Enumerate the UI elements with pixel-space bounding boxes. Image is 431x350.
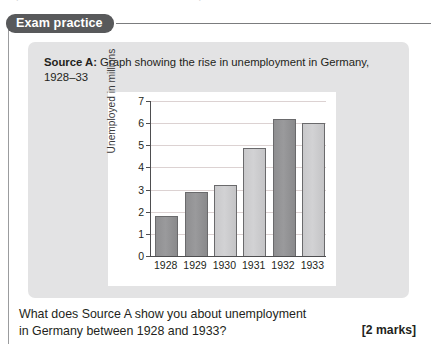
y-axis-tick-label: 2	[138, 206, 144, 217]
bar-1931	[243, 148, 266, 257]
x-axis-line	[150, 256, 326, 257]
exam-question: What does Source A show you about unempl…	[19, 306, 417, 342]
marks-badge: [2 marks]	[362, 323, 416, 337]
y-axis-tick	[146, 167, 150, 168]
y-axis-tick-label: 6	[138, 118, 144, 129]
cutoff-text-line: a period of severe economic hardship	[6, 0, 205, 1]
y-axis-tick-label: 1	[138, 229, 144, 240]
page-top-cutoff-sliver: a period of severe economic hardship	[0, 0, 431, 11]
bar-1928	[155, 216, 178, 256]
bar-1933	[302, 123, 325, 256]
y-axis-tick-label: 0	[138, 251, 144, 262]
x-tick-1929: 1929	[180, 259, 209, 271]
header-rule	[116, 23, 431, 24]
bar-1932	[273, 119, 296, 256]
x-tick-1928: 1928	[151, 259, 180, 271]
y-axis-tick-label: 7	[138, 96, 144, 107]
exam-block-left-rule	[8, 24, 9, 344]
y-axis-tick-label: 5	[138, 140, 144, 151]
y-axis-title: Unemployed in millions	[106, 46, 120, 156]
y-axis-tick-label: 3	[138, 184, 144, 195]
x-axis-tick-labels: 192819291930193119321933	[151, 258, 326, 274]
y-axis-tick	[146, 256, 150, 257]
bar-1930	[214, 185, 237, 256]
unemployment-bar-chart: Unemployed in millions 01234567 19281929…	[108, 92, 336, 286]
y-axis-tick	[146, 101, 150, 102]
y-axis-tick	[146, 190, 150, 191]
exam-practice-header: Exam practice	[6, 14, 431, 34]
chart-plot-area: 01234567	[150, 101, 326, 257]
y-axis-tick	[146, 123, 150, 124]
y-axis-tick	[146, 234, 150, 235]
question-text: What does Source A show you about unempl…	[19, 306, 319, 339]
x-tick-1932: 1932	[268, 259, 297, 271]
x-tick-1931: 1931	[239, 259, 268, 271]
source-panel: Source A: Graph showing the rise in unem…	[28, 42, 409, 298]
x-tick-1933: 1933	[298, 259, 327, 271]
source-label: Source A:	[44, 56, 97, 68]
bar-1929	[185, 192, 208, 256]
exam-practice-badge: Exam practice	[6, 14, 114, 33]
y-axis-tick	[146, 212, 150, 213]
y-axis-tick	[146, 145, 150, 146]
x-tick-1930: 1930	[210, 259, 239, 271]
source-caption: Source A: Graph showing the rise in unem…	[44, 55, 384, 84]
y-axis-tick-label: 4	[138, 162, 144, 173]
bar-series	[151, 101, 326, 256]
